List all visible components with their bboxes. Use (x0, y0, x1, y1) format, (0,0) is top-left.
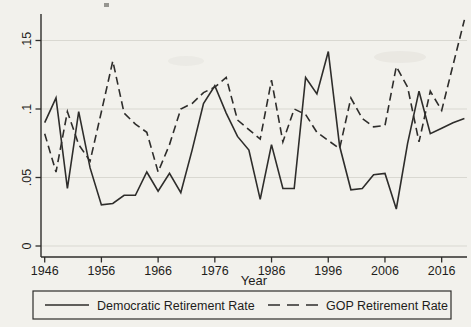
x-tick-label-2006: 2006 (371, 264, 399, 278)
scan-artifact (374, 51, 426, 63)
retirement-rate-chart: 0.05.1.15 194619561966197619861996200620… (0, 0, 471, 327)
x-tick-label-1966: 1966 (144, 264, 172, 278)
scan-artifact (104, 3, 109, 7)
y-tick-label-.05: .05 (20, 169, 34, 186)
x-tick-label-1956: 1956 (88, 264, 116, 278)
legend-gop-label: GOP Retirement Rate (326, 299, 448, 313)
y-tick-label-.1: .1 (20, 104, 34, 114)
x-tick-label-1976: 1976 (201, 264, 229, 278)
x-tick-label-1946: 1946 (31, 264, 59, 278)
x-tick-label-1996: 1996 (314, 264, 342, 278)
scan-artifact (168, 56, 204, 66)
x-axis-title: Year (241, 273, 268, 288)
y-tick-label-0: 0 (20, 242, 34, 249)
retirement-rate-figure: 0.05.1.15 194619561966197619861996200620… (0, 0, 471, 327)
y-tick-label-.15: .15 (20, 32, 34, 49)
x-tick-label-2016: 2016 (428, 264, 456, 278)
legend-democratic-label: Democratic Retirement Rate (97, 299, 255, 313)
